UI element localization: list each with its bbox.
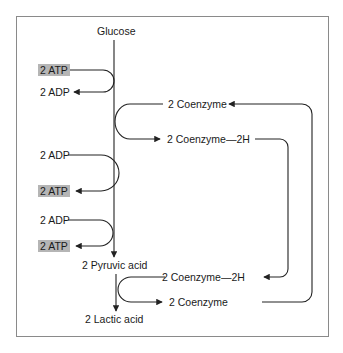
glycolysis-diagram: Glucose 2 ATP 2 ADP 2 ADP 2 ATP 2 ADP 2 …	[0, 0, 343, 353]
energy-step-2-loop	[68, 155, 119, 191]
atp-output-label-1: 2 ATP	[38, 185, 70, 197]
coenzyme-2h-transfer-arrow	[255, 139, 288, 277]
lower-coenzyme-loop	[118, 277, 165, 302]
adp-input-label-2: 2 ADP	[40, 214, 70, 226]
adp-produced-label: 2 ADP	[40, 86, 70, 98]
atp-output-label-2: 2 ATP	[38, 240, 70, 252]
glucose-label: Glucose	[97, 25, 136, 37]
coenzyme-2h-upper-label: 2 Coenzyme—2H	[167, 133, 250, 145]
atp-consumed-label: 2 ATP	[38, 64, 70, 76]
energy-step-3-loop	[68, 220, 113, 246]
coenzyme-upper-label: 2 Coenzyme	[168, 98, 227, 110]
lactic-acid-label: 2 Lactic acid	[85, 313, 143, 325]
upper-coenzyme-loop	[115, 104, 163, 139]
adp-input-label-1: 2 ADP	[40, 149, 70, 161]
pyruvic-acid-label: 2 Pyruvic acid	[82, 259, 147, 271]
coenzyme-2h-lower-label: 2 Coenzyme—2H	[162, 271, 245, 283]
coenzyme-lower-label: 2 Coenzyme	[169, 296, 228, 308]
energy-step-1-loop	[70, 70, 114, 92]
